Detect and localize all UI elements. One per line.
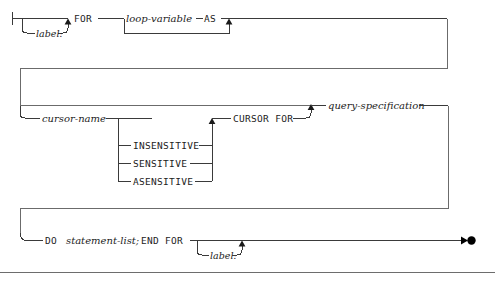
end-terminator-dot: [467, 236, 475, 244]
arrowhead-label1-merge-icon: [65, 19, 72, 25]
wrap-connector-1: [20, 19, 447, 106]
token-for: FOR: [74, 13, 92, 24]
arrowhead-as-merge-icon: [226, 19, 233, 25]
arrowhead-cursorfor-merge-icon: [308, 104, 315, 110]
token-cursor-for: CURSOR FOR: [233, 113, 293, 124]
token-as: AS: [204, 13, 216, 24]
token-asensitive: ASENSITIVE: [133, 176, 193, 187]
arrowhead-sensitivity-merge-icon: [209, 118, 216, 124]
token-cursor-name: cursor-name: [42, 113, 106, 124]
token-end-for: END FOR: [141, 235, 183, 246]
railroad-diagram-canvas: label: FOR loop-variable AS cursor-name …: [0, 0, 495, 283]
token-loop-variable: loop-variable: [126, 13, 192, 24]
rail-row3-enter: [20, 233, 43, 241]
branch-label1-enter: [22, 19, 35, 34]
token-insensitive: INSENSITIVE: [133, 140, 199, 151]
token-query-specification: query-specification: [328, 100, 425, 111]
token-label-1: label:: [36, 28, 63, 39]
token-sensitive: SENSITIVE: [133, 158, 187, 169]
wrap-connector-2: [20, 106, 448, 234]
arrowhead-label2-merge-icon: [239, 241, 246, 247]
branch-cursorname-enter: [20, 106, 40, 119]
token-statement-list: statement-list;: [66, 235, 139, 246]
branch-label2-enter: [197, 241, 209, 256]
token-do: DO: [45, 235, 57, 246]
railroad-diagram: label: FOR loop-variable AS cursor-name …: [0, 0, 495, 283]
end-arrowhead-icon: [461, 237, 468, 245]
